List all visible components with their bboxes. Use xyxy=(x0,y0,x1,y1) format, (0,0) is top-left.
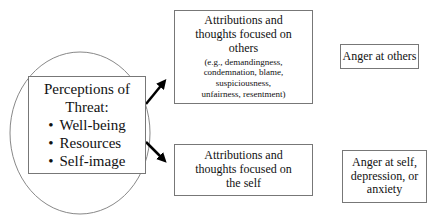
threat-item-resources: Resources xyxy=(48,134,126,152)
attributions-others-node: Attributions and thoughts focused on oth… xyxy=(174,10,313,104)
anger-self-line3: anxiety xyxy=(367,183,402,197)
others-line3: others xyxy=(229,42,258,56)
examples-line2: condemnation, blame, xyxy=(202,67,286,78)
anger-at-self-node: Anger at self, depression, or anxiety xyxy=(342,150,427,203)
anger-at-others-node: Anger at others xyxy=(340,44,419,69)
self-line1: Attributions and xyxy=(204,149,282,163)
examples-line4: unfairness, resentment) xyxy=(202,89,286,100)
threat-title-line1: Perceptions of xyxy=(44,80,130,98)
perceptions-of-threat-node: Perceptions of Threat: Well-being Resour… xyxy=(28,76,146,174)
anger-self-line1: Anger at self, xyxy=(352,156,417,170)
anger-self-line2: depression, or xyxy=(351,170,418,184)
threat-list: Well-being Resources Self-image xyxy=(48,116,126,170)
examples-line1: (e.g., demandingness, xyxy=(202,57,286,68)
anger-others-label: Anger at others xyxy=(343,50,417,64)
threat-item-self-image: Self-image xyxy=(48,152,126,170)
self-line2: thoughts focused on xyxy=(195,163,292,177)
threat-item-well-being: Well-being xyxy=(48,116,126,134)
arrow-threat-to-others xyxy=(146,82,164,104)
others-examples: (e.g., demandingness, condemnation, blam… xyxy=(202,57,286,100)
others-line1: Attributions and xyxy=(204,14,282,28)
threat-title-line2: Threat: xyxy=(65,98,108,116)
others-line2: thoughts focused on xyxy=(195,28,292,42)
self-line3: the self xyxy=(226,177,261,191)
examples-line3: suspiciousness, xyxy=(202,78,286,89)
attributions-self-node: Attributions and thoughts focused on the… xyxy=(174,144,313,196)
